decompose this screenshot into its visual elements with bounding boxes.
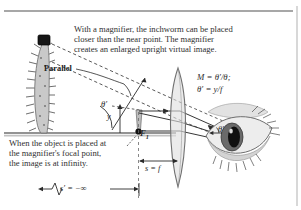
theta-prime-label: θ′: [101, 99, 107, 109]
top-caption-line-3: creates an enlarged upright virtual imag…: [74, 44, 233, 54]
equation-angle: θ′ = y/f: [197, 84, 231, 94]
worm-head: [38, 35, 50, 45]
converging-lens: [171, 68, 186, 187]
bottom-caption-line-3: the image is at infinity.: [9, 158, 106, 168]
object-distance-label: s = f: [145, 164, 160, 174]
top-caption-line-1: With a magnifier, the inchworm can be pl…: [74, 24, 233, 34]
inchworm-object: [26, 35, 56, 133]
f1-leader: [127, 136, 136, 146]
bottom-caption-line-1: When the object is placed at: [9, 138, 106, 148]
focal-point-subscript: 1: [146, 133, 149, 140]
human-eye: [206, 103, 280, 172]
object-height-label: y: [107, 112, 111, 122]
parallel-label: Parallel: [44, 64, 72, 74]
top-caption: With a magnifier, the inchworm can be pl…: [74, 24, 233, 54]
worm-body: [35, 44, 50, 133]
parallel-leader-line: [76, 69, 124, 84]
bottom-caption-line-2: the magnifier's focal point,: [9, 148, 106, 158]
theta-prime-eye-label: θ′: [218, 125, 224, 135]
top-caption-line-2: closer than the near point. The magnifie…: [74, 34, 233, 44]
object-height-arrow: [117, 104, 122, 133]
image-distance-label: s′ = −∞: [60, 184, 87, 194]
bottom-caption: When the object is placed at the magnifi…: [9, 138, 106, 168]
equation-magnification: M = θ′/θ;: [197, 72, 231, 82]
parallel-leader-line-2: [124, 84, 131, 96]
magnifier-figure: With a magnifier, the inchworm can be pl…: [0, 0, 301, 210]
focal-point-label: F1: [140, 128, 149, 140]
equation-block: M = θ′/θ; θ′ = y/f: [197, 72, 231, 97]
image-distance-dimension: [38, 183, 139, 196]
